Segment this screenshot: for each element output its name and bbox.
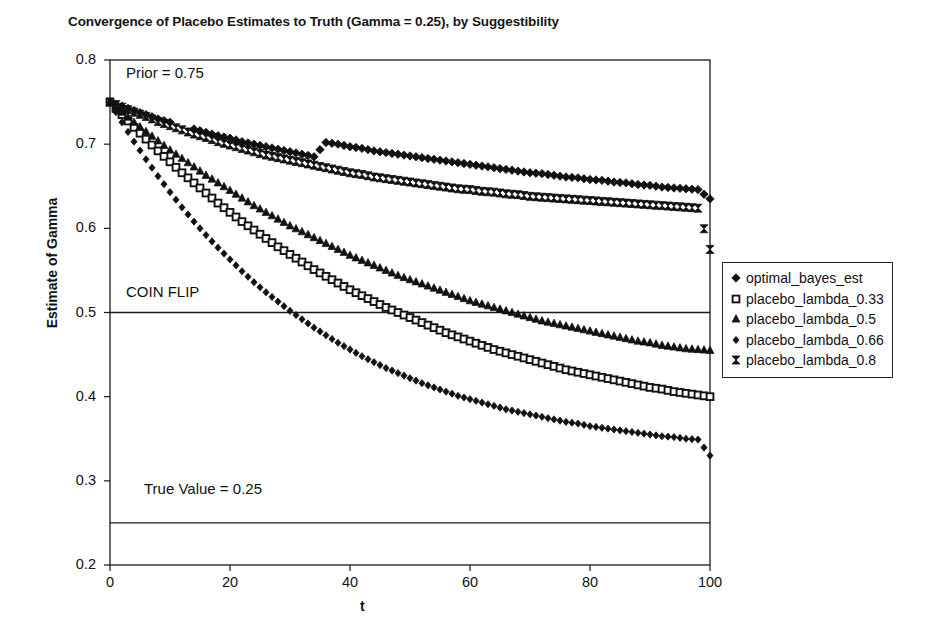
data-point-triangle-filled	[622, 334, 630, 341]
data-point-diamond-small	[677, 434, 683, 441]
legend-item-optimal_bayes_est[interactable]: optimal_bayes_est	[728, 268, 884, 289]
data-point-diamond-small	[707, 452, 713, 459]
data-point-diamond-small	[383, 364, 389, 371]
data-point-diamond-small	[599, 424, 605, 431]
legend-item-placebo_lambda_0.33[interactable]: placebo_lambda_0.33	[728, 289, 884, 310]
data-point-diamond-small	[407, 375, 413, 382]
chart-container: Convergence of Placebo Estimates to Trut…	[0, 0, 928, 631]
data-point-diamond-small	[479, 399, 485, 406]
true-value-annotation: True Value = 0.25	[144, 480, 262, 497]
data-point-diamond-small	[137, 147, 143, 154]
data-point-diamond-small	[305, 320, 311, 327]
data-point-diamond-small	[335, 339, 341, 346]
data-point-bowtie-filled	[232, 143, 240, 151]
data-point-bowtie-filled	[694, 204, 702, 212]
data-point-bowtie-filled	[214, 138, 222, 146]
y-axis-title: Estimate of Gamma	[44, 163, 60, 363]
data-point-bowtie-filled	[172, 124, 180, 132]
data-point-diamond-filled	[316, 145, 324, 153]
data-point-diamond-small	[665, 433, 671, 440]
legend-marker-diamond-small-icon	[728, 332, 744, 348]
data-point-diamond-small	[317, 328, 323, 335]
data-point-triangle-filled	[628, 336, 636, 343]
data-point-diamond-small	[557, 417, 563, 424]
y-tick-label: 0.4	[50, 388, 96, 404]
data-point-bowtie-filled	[196, 132, 204, 140]
legend-item-placebo_lambda_0.5[interactable]: placebo_lambda_0.5	[728, 309, 884, 330]
data-point-diamond-small	[689, 436, 695, 443]
legend-item-placebo_lambda_0.66[interactable]: placebo_lambda_0.66	[728, 330, 884, 351]
data-point-diamond-small	[503, 406, 509, 413]
data-point-diamond-small	[257, 284, 263, 291]
data-point-diamond-small	[515, 408, 521, 415]
data-point-square-open	[733, 295, 740, 302]
data-point-diamond-small	[143, 156, 149, 163]
y-tick-label: 0.7	[50, 135, 96, 151]
data-point-bowtie-filled	[706, 245, 714, 253]
y-tick-label: 0.5	[50, 304, 96, 320]
data-point-triangle-filled	[556, 320, 564, 327]
data-point-diamond-small	[173, 196, 179, 203]
data-point-diamond-small	[389, 367, 395, 374]
data-point-diamond-small	[161, 181, 167, 188]
y-tick-label: 0.6	[50, 219, 96, 235]
data-point-diamond-small	[437, 386, 443, 393]
data-point-diamond-small	[617, 427, 623, 434]
data-point-diamond-small	[443, 388, 449, 395]
data-point-triangle-filled	[562, 322, 570, 329]
data-point-diamond-small	[521, 409, 527, 416]
data-point-diamond-small	[635, 429, 641, 436]
data-point-diamond-small	[359, 353, 365, 360]
data-point-diamond-small	[563, 418, 569, 425]
y-tick-label: 0.3	[50, 472, 96, 488]
data-point-diamond-small	[287, 307, 293, 314]
data-point-triangle-filled	[592, 328, 600, 335]
data-point-diamond-small	[527, 411, 533, 418]
data-point-diamond-small	[431, 384, 437, 391]
x-tick-label: 80	[560, 574, 620, 590]
data-point-diamond-small	[581, 421, 587, 428]
data-point-triangle-filled	[568, 323, 576, 330]
data-point-diamond-small	[197, 225, 203, 232]
data-point-diamond-small	[401, 372, 407, 379]
data-point-diamond-small	[203, 231, 209, 238]
data-point-square-open	[707, 393, 714, 400]
data-point-triangle-filled	[598, 329, 606, 336]
data-point-triangle-filled	[646, 339, 654, 346]
data-point-diamond-small	[575, 420, 581, 427]
data-point-diamond-small	[497, 404, 503, 411]
x-tick-label: 100	[680, 574, 740, 590]
data-point-diamond-small	[227, 256, 233, 263]
y-tick-label: 0.8	[50, 51, 96, 67]
data-point-diamond-small	[461, 394, 467, 401]
data-point-triangle-filled	[544, 318, 552, 325]
legend-label: placebo_lambda_0.5	[744, 311, 876, 327]
data-point-diamond-small	[593, 423, 599, 430]
data-point-bowtie-filled	[700, 225, 708, 233]
data-point-diamond-small	[347, 346, 353, 353]
data-point-diamond-small	[395, 370, 401, 377]
data-point-diamond-small	[539, 413, 545, 420]
data-point-diamond-small	[239, 268, 245, 275]
data-point-diamond-small	[605, 425, 611, 432]
series-placebo_lambda_0.33	[107, 99, 714, 400]
data-point-bowtie-filled	[208, 136, 216, 144]
data-point-triangle-filled	[580, 325, 588, 332]
data-point-diamond-small	[299, 316, 305, 323]
data-point-triangle-filled	[604, 331, 612, 338]
data-point-diamond-small	[221, 250, 227, 257]
data-point-triangle-filled	[574, 324, 582, 331]
data-point-diamond-small	[341, 343, 347, 350]
data-point-bowtie-filled	[250, 148, 258, 156]
legend-item-placebo_lambda_0.8[interactable]: placebo_lambda_0.8	[728, 350, 884, 371]
data-point-diamond-small	[329, 335, 335, 342]
data-point-diamond-small	[215, 244, 221, 251]
data-point-bowtie-filled	[178, 126, 186, 134]
x-tick-label: 40	[320, 574, 380, 590]
data-point-diamond-small	[695, 436, 701, 443]
data-point-diamond-small	[545, 415, 551, 422]
legend-label: optimal_bayes_est	[744, 270, 863, 286]
series-placebo_lambda_0.8	[106, 98, 714, 253]
prior-annotation: Prior = 0.75	[126, 64, 204, 81]
legend: optimal_bayes_estplacebo_lambda_0.33plac…	[722, 262, 893, 378]
